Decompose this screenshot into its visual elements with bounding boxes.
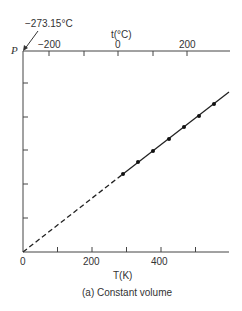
- bottom-axis-title: T(K): [113, 270, 132, 281]
- top-ticks: [49, 51, 187, 56]
- bottom-ticks: [58, 247, 196, 252]
- bottom-tick-label-200: 200: [83, 256, 100, 267]
- y-ticks: [23, 83, 28, 218]
- chart-caption: (a) Constant volume: [82, 287, 172, 298]
- extrapolation-dashed-line: [23, 174, 123, 252]
- absolute-zero-arrow-icon: [23, 31, 38, 51]
- top-tick-label-200: 200: [179, 39, 196, 50]
- p-axis-label: P: [10, 44, 18, 56]
- pressure-temperature-chart: −273.15°C P t(°C) −200 0 200 0 200 400 T…: [0, 0, 242, 311]
- bottom-tick-label-0: 0: [20, 256, 26, 267]
- top-tick-label-0: 0: [115, 39, 121, 50]
- annotation-absolute-zero: −273.15°C: [25, 18, 73, 29]
- top-tick-label-m200: −200: [38, 39, 61, 50]
- bottom-tick-label-400: 400: [151, 256, 168, 267]
